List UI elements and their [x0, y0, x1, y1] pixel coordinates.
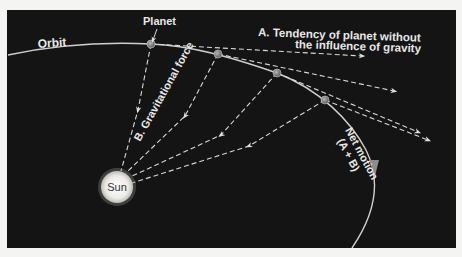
planet-icon — [321, 96, 329, 104]
planet-icon — [147, 40, 155, 48]
tendency-arrow-4 — [325, 100, 428, 140]
gravitational-force-label: B. Gravitational force — [131, 40, 195, 143]
gravity-arrow-4 — [132, 100, 325, 183]
sun-label: Sun — [107, 181, 127, 193]
planet-icon — [273, 69, 281, 77]
gravity-arrow-3 — [130, 73, 277, 177]
tendency-arrow-2 — [218, 54, 394, 91]
tendency-arrows — [151, 44, 428, 140]
diagram-panel: Orbit Planet A. Tendency of planet witho… — [7, 10, 456, 248]
planet-label-leader — [153, 29, 157, 40]
orbit-label: Orbit — [37, 35, 67, 51]
orbital-motion-diagram: Orbit Planet A. Tendency of planet witho… — [7, 10, 456, 248]
orbit-path — [8, 43, 375, 248]
planet-label: Planet — [143, 15, 176, 27]
gravity-arrow-1 — [121, 44, 151, 171]
planet-icon — [214, 50, 222, 58]
